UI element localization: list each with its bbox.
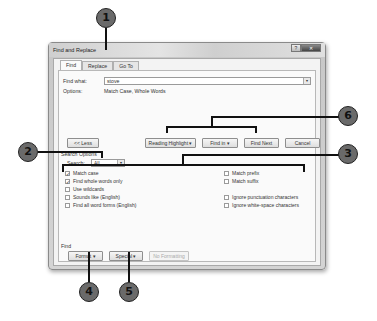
callout-3-line xyxy=(62,164,305,166)
callout-4: 4 xyxy=(79,282,99,302)
callout-2-line xyxy=(101,151,103,158)
checkbox-box[interactable] xyxy=(224,203,229,208)
checkbox-label: Use wildcards xyxy=(73,186,104,192)
tab-strip: Find Replace Go To xyxy=(60,61,139,70)
checkbox-box[interactable] xyxy=(65,203,70,208)
callout-3-line xyxy=(182,154,339,156)
sounds-like-checkbox[interactable]: Sounds like (English) xyxy=(65,194,120,200)
callout-2: 2 xyxy=(18,142,38,162)
find-in-button[interactable]: Find in ▾ xyxy=(202,138,238,148)
checkbox-label: Ignore white-space characters xyxy=(232,202,299,208)
dialog-title: Find and Replace xyxy=(53,47,96,53)
help-button[interactable]: ? xyxy=(291,44,301,52)
checkbox-box[interactable]: ✓ xyxy=(65,179,70,184)
no-formatting-button[interactable]: No Formatting xyxy=(149,251,189,261)
match-case-checkbox[interactable]: ✓ Match case xyxy=(65,170,99,176)
checkbox-label: Ignore punctuation characters xyxy=(232,194,298,200)
find-what-label: Find what: xyxy=(63,78,87,84)
match-prefix-checkbox[interactable]: Match prefix xyxy=(224,170,259,176)
tab-go-to[interactable]: Go To xyxy=(113,61,139,70)
checkbox-label: Match case xyxy=(73,170,99,176)
close-button[interactable]: ✕ xyxy=(301,44,321,52)
find-what-dropdown[interactable]: ▾ xyxy=(303,78,310,84)
callout-6: 6 xyxy=(338,106,358,126)
checkbox-box[interactable] xyxy=(65,195,70,200)
use-wildcards-checkbox[interactable]: Use wildcards xyxy=(65,186,104,192)
tab-replace[interactable]: Replace xyxy=(82,61,113,70)
find-replace-dialog: Find and Replace ? ✕ Find Replace Go To … xyxy=(48,42,326,270)
dialog-body: Find Replace Go To Find what: stove ▾ Op… xyxy=(53,58,321,266)
find-what-value: stove xyxy=(107,78,119,84)
checkbox-box[interactable] xyxy=(224,171,229,176)
less-button[interactable]: << Less xyxy=(67,138,99,148)
checkbox-label: Sounds like (English) xyxy=(73,194,120,200)
find-whole-words-checkbox[interactable]: ✓ Find whole words only xyxy=(65,178,122,184)
checkbox-label: Find all word forms (English) xyxy=(73,202,136,208)
ignore-whitespace-checkbox[interactable]: Ignore white-space characters xyxy=(224,202,299,208)
callout-3-line xyxy=(62,164,64,172)
title-bar[interactable]: Find and Replace ? ✕ xyxy=(49,43,325,57)
find-tab-panel: Find what: stove ▾ Options: Match Case, … xyxy=(58,70,316,262)
callout-1-line xyxy=(105,28,107,50)
callout-2-line xyxy=(38,151,103,153)
callout-3-line xyxy=(303,164,305,172)
checkbox-label: Match suffix xyxy=(232,178,259,184)
close-icon: ✕ xyxy=(309,45,313,51)
callout-5: 5 xyxy=(119,282,139,302)
callout-6-line xyxy=(166,126,168,133)
find-all-word-forms-checkbox[interactable]: Find all word forms (English) xyxy=(65,202,136,208)
ignore-punctuation-checkbox[interactable]: Ignore punctuation characters xyxy=(224,194,298,200)
chevron-down-icon: ▾ xyxy=(306,78,308,83)
checkbox-box[interactable] xyxy=(65,187,70,192)
checkbox-box[interactable]: ✓ xyxy=(65,171,70,176)
checkbox-box[interactable] xyxy=(224,195,229,200)
find-next-button[interactable]: Find Next xyxy=(244,138,279,148)
find-what-input[interactable]: stove ▾ xyxy=(104,77,311,85)
options-value: Match Case, Whole Words xyxy=(104,88,166,94)
callout-6-line xyxy=(255,126,257,133)
callout-4-line xyxy=(88,252,90,282)
find-heading: Find xyxy=(61,243,71,249)
cancel-button[interactable]: Cancel xyxy=(285,138,320,148)
checkbox-label: Find whole words only xyxy=(73,178,122,184)
callout-3: 3 xyxy=(338,144,358,164)
checkbox-box[interactable] xyxy=(224,179,229,184)
callout-5-line xyxy=(128,252,130,282)
callout-6-line xyxy=(166,126,257,128)
format-button[interactable]: Format ▾ xyxy=(68,251,103,261)
special-button[interactable]: Special ▾ xyxy=(109,251,143,261)
tab-find[interactable]: Find xyxy=(60,60,82,70)
options-label: Options: xyxy=(63,88,82,94)
checkbox-label: Match prefix xyxy=(232,170,259,176)
callout-6-line xyxy=(211,116,339,118)
callout-1: 1 xyxy=(96,8,116,28)
reading-highlight-button[interactable]: Reading Highlight ▾ xyxy=(145,138,196,148)
match-suffix-checkbox[interactable]: Match suffix xyxy=(224,178,259,184)
